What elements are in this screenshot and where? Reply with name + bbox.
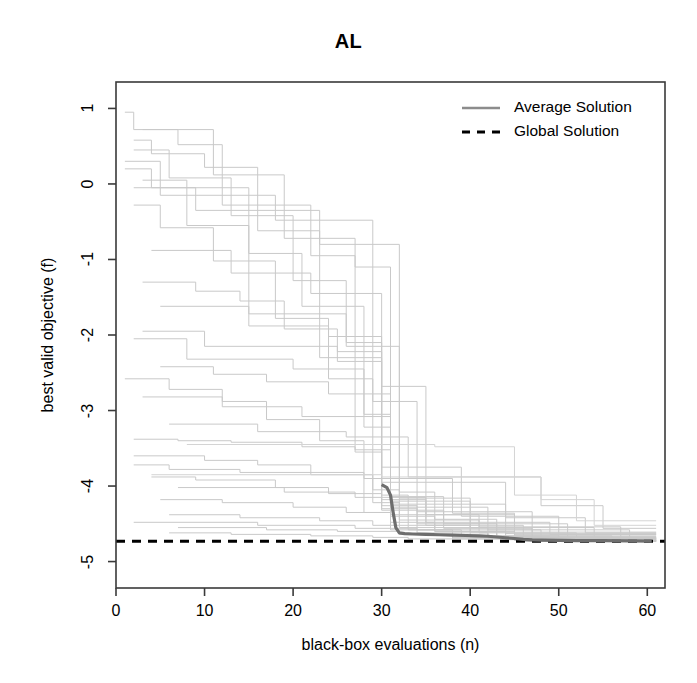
trace-line bbox=[134, 140, 656, 539]
y-tick-label: -4 bbox=[78, 466, 98, 506]
trace-line bbox=[169, 424, 656, 528]
x-tick-label: 10 bbox=[183, 602, 227, 620]
legend-label-2: Global Solution bbox=[514, 122, 619, 140]
x-tick-label: 50 bbox=[537, 602, 581, 620]
axes-group bbox=[108, 82, 665, 596]
y-tick-label: -2 bbox=[78, 315, 98, 355]
trace-line bbox=[134, 205, 656, 538]
y-tick-label: 0 bbox=[78, 164, 98, 204]
trace-lines-group bbox=[125, 112, 656, 541]
y-tick-label: -1 bbox=[78, 239, 98, 279]
chart-figure: AL best valid objective (f) black-box ev… bbox=[0, 0, 697, 683]
y-tick-label: -3 bbox=[78, 391, 98, 431]
x-tick-label: 20 bbox=[271, 602, 315, 620]
legend-label-1: Average Solution bbox=[514, 98, 632, 116]
x-tick-label: 30 bbox=[360, 602, 404, 620]
x-tick-label: 0 bbox=[94, 602, 138, 620]
y-tick-label: -5 bbox=[78, 542, 98, 582]
y-tick-label: 1 bbox=[78, 88, 98, 128]
x-tick-label: 40 bbox=[448, 602, 492, 620]
trace-line bbox=[134, 150, 656, 537]
x-tick-label: 60 bbox=[625, 602, 669, 620]
legend-lines-group bbox=[462, 108, 500, 132]
trace-line bbox=[134, 188, 656, 537]
